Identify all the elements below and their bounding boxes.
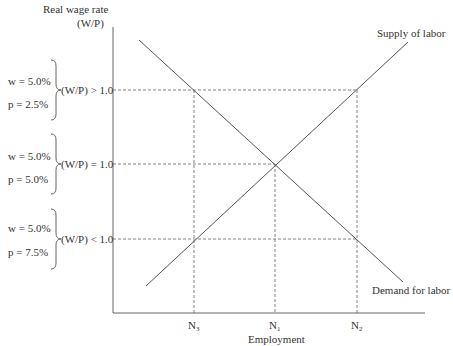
x-axis-label: Employment	[248, 334, 305, 345]
group-low-p: p = 7.5%	[8, 247, 48, 258]
demand-curve	[139, 40, 403, 282]
supply-label: Supply of labor	[377, 28, 445, 39]
group-high-ratio: (W/P) > 1.0	[61, 85, 113, 96]
group-equal-p: p = 5.0%	[8, 174, 48, 185]
group-equal-ratio: (W/P) = 1.0	[61, 159, 113, 170]
group-low-ratio: (W/P) < 1.0	[61, 234, 113, 245]
brace-low	[51, 209, 61, 269]
group-low-w: w = 5.0%	[8, 223, 51, 234]
y-axis-label-unit: (W/P)	[77, 18, 104, 29]
brace-high	[51, 60, 61, 120]
tick-n3: N3	[188, 320, 199, 333]
group-equal-w: w = 5.0%	[8, 151, 51, 162]
group-high-w: w = 5.0%	[8, 76, 51, 87]
group-high-p: p = 2.5%	[8, 99, 48, 110]
brace-equal	[51, 134, 61, 194]
tick-n1: N1	[269, 320, 280, 333]
y-axis-label: Real wage rate	[43, 4, 108, 15]
tick-n2: N2	[351, 320, 362, 333]
demand-label: Demand for labor	[372, 285, 450, 296]
